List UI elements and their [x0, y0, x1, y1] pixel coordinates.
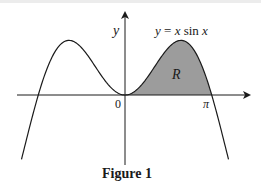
curve-label-eq: =	[161, 23, 175, 38]
figure-caption: Figure 1	[102, 166, 152, 181]
figure-graph: y y = x sin x R 0 π Figure 1	[0, 0, 261, 184]
curve-label: y = x sin x	[153, 23, 208, 38]
region-label: R	[171, 67, 181, 82]
origin-label: 0	[115, 97, 121, 111]
y-axis-label: y	[111, 23, 120, 38]
curve-label-sin: sin	[180, 23, 202, 38]
pi-label: π	[203, 97, 210, 111]
curve-label-x2: x	[201, 23, 208, 38]
